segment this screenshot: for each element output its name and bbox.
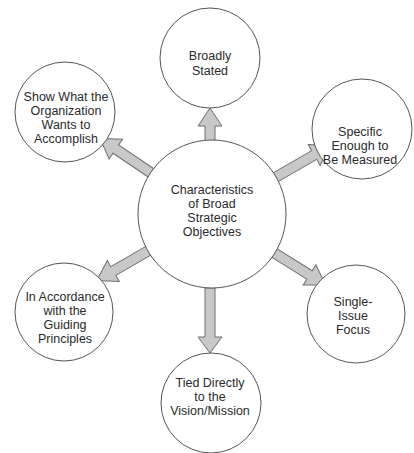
svg-text:with the: with the [42, 304, 86, 318]
svg-text:Issue: Issue [338, 309, 368, 323]
svg-text:Specific: Specific [338, 125, 382, 139]
svg-text:of Broad: of Broad [188, 197, 235, 211]
svg-text:Accomplish: Accomplish [34, 132, 98, 146]
arrow-to-bottom [198, 288, 222, 353]
node-line: Specific [338, 125, 382, 139]
diagram-canvas: Characteristics of Broad Strategic Objec… [0, 0, 414, 453]
node-single-issue-focus: Single- Issue Focus [307, 265, 405, 363]
svg-text:Strategic: Strategic [187, 211, 236, 225]
node-line: Single- [334, 295, 373, 309]
center-node: Characteristics of Broad Strategic Objec… [138, 140, 286, 288]
svg-text:Wants to: Wants to [42, 118, 91, 132]
svg-text:In Accordance: In Accordance [25, 290, 104, 304]
node-line: Tied Directly [176, 376, 246, 390]
node-line: Stated [192, 64, 228, 78]
node-line: Organization [31, 104, 102, 118]
center-line: Characteristics [171, 183, 254, 197]
node-line: Principles [38, 332, 92, 346]
node-line: Accomplish [34, 132, 98, 146]
center-line: of Broad [188, 197, 235, 211]
center-line: Objectives [183, 225, 241, 239]
node-line: Be Measured [323, 153, 397, 167]
svg-text:Vision/Mission: Vision/Mission [170, 404, 250, 418]
node-line: Broadly [189, 49, 232, 63]
svg-text:Stated: Stated [192, 64, 228, 78]
svg-text:to the: to the [194, 390, 225, 404]
svg-text:Organization: Organization [31, 104, 102, 118]
node-line: Guiding [43, 318, 86, 332]
node-show-what: Show What the Organization Wants to Acco… [15, 62, 115, 162]
node-line: Focus [336, 323, 370, 337]
node-tied-directly: Tied Directly to the Vision/Mission [161, 353, 261, 453]
node-line: to the [194, 390, 225, 404]
svg-text:Characteristics: Characteristics [171, 183, 254, 197]
node-line: Issue [338, 309, 368, 323]
node-line: Show What the [24, 90, 109, 104]
arrow-to-top [198, 108, 222, 141]
svg-text:Objectives: Objectives [183, 225, 241, 239]
node-in-accordance: In Accordance with the Guiding Principle… [15, 263, 113, 361]
svg-text:Show What the: Show What the [24, 90, 109, 104]
node-line: Wants to [42, 118, 91, 132]
center-line: Strategic [187, 211, 236, 225]
svg-text:Enough to: Enough to [332, 139, 389, 153]
node-line: with the [42, 304, 86, 318]
svg-text:Be Measured: Be Measured [323, 153, 397, 167]
svg-text:Broadly: Broadly [189, 49, 232, 63]
node-line: Vision/Mission [170, 404, 250, 418]
svg-text:Principles: Principles [38, 332, 92, 346]
svg-text:Focus: Focus [336, 323, 370, 337]
node-broadly-stated: Broadly Stated [160, 8, 260, 108]
node-specific-enough: Specific Enough to Be Measured [312, 79, 412, 179]
svg-text:Single-: Single- [334, 295, 373, 309]
node-line: Enough to [332, 139, 389, 153]
svg-text:Tied Directly: Tied Directly [176, 376, 246, 390]
node-line: In Accordance [25, 290, 104, 304]
svg-text:Guiding: Guiding [43, 318, 86, 332]
